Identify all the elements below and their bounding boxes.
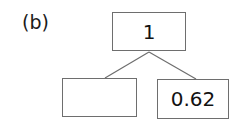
root-node: 1 bbox=[112, 12, 186, 51]
root-to-right-child-connector bbox=[149, 52, 196, 79]
figure-canvas: (b) 1 0.62 bbox=[0, 0, 241, 129]
right-child-node-value: 0.62 bbox=[171, 89, 216, 109]
left-child-node bbox=[62, 78, 137, 117]
right-child-node: 0.62 bbox=[157, 79, 229, 119]
root-node-value: 1 bbox=[143, 22, 156, 42]
root-to-left-child-connector bbox=[105, 52, 149, 78]
panel-label: (b) bbox=[22, 10, 49, 34]
